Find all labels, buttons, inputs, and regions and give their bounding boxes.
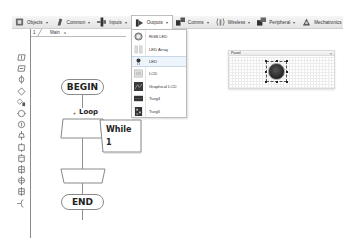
toolbar-comms-label: Comms — [188, 20, 204, 25]
chevron-down-icon: ▾ — [248, 20, 250, 25]
outputs-icon — [135, 18, 144, 28]
toolbar-objects-label: Objects — [27, 20, 43, 25]
toolbar-inputs[interactable]: Inputs ▾ — [94, 16, 131, 29]
comment-icon[interactable] — [14, 197, 28, 208]
component-macro-icon[interactable] — [14, 119, 28, 130]
panel-titlebar[interactable]: Panel × — [229, 51, 334, 56]
toolbar-comms[interactable]: Comms ▾ — [173, 16, 213, 29]
panel-canvas[interactable] — [229, 57, 334, 88]
delay-icon[interactable] — [14, 74, 28, 85]
resize-handle[interactable] — [265, 60, 267, 62]
comms-icon — [176, 17, 185, 27]
peripheral-icon — [257, 17, 266, 27]
resize-handle[interactable] — [276, 60, 278, 62]
led-icon — [134, 57, 143, 66]
chevron-down-icon: ▾ — [207, 20, 209, 25]
input-icon[interactable] — [14, 52, 28, 63]
menu-item-graphical-lcd[interactable]: Graphical LCD — [132, 81, 186, 93]
menu-item-label: LED Array — [149, 47, 168, 52]
menu-item-label: Tseg5 — [149, 109, 160, 114]
code-icon[interactable] — [14, 164, 28, 175]
resize-handle[interactable] — [286, 60, 288, 62]
resize-handle[interactable] — [286, 71, 288, 73]
tab-close-icon[interactable]: x — [64, 30, 66, 35]
calculation-icon[interactable] — [14, 142, 28, 153]
toolbar-inputs-label: Inputs — [109, 20, 122, 25]
resize-handle[interactable] — [286, 81, 288, 83]
tseg5-icon — [134, 107, 143, 116]
connection-point-icon[interactable] — [14, 153, 28, 164]
toolbar-wireless-label: Wireless — [228, 20, 246, 25]
toolbar-common[interactable]: Common ▾ — [52, 16, 95, 29]
chevron-down-icon: ▾ — [46, 20, 48, 25]
menu-item-label: RGB LED — [149, 34, 167, 39]
switch-icon[interactable] — [14, 97, 28, 108]
toolbar-outputs[interactable]: Outputs ▾ — [131, 15, 173, 29]
macro-icon[interactable] — [14, 108, 28, 119]
menu-item-tseg5[interactable]: Tseg5 — [132, 106, 186, 118]
led-component[interactable] — [268, 63, 285, 80]
decision-icon[interactable] — [14, 86, 28, 97]
chevron-down-icon: ▾ — [125, 20, 127, 25]
chevron-down-icon: ▾ — [293, 20, 295, 25]
inputs-icon — [97, 17, 106, 27]
menu-item-led-array[interactable]: LED Array — [132, 44, 186, 56]
toolbar-outputs-label: Outputs — [147, 20, 163, 25]
menu-item-tseg4[interactable]: Tseg4 — [132, 93, 186, 105]
flowcode-window: Objects ▾ Common ▾ Inputs ▾ Outputs ▾ Co… — [0, 0, 343, 238]
toolbar-peripheral[interactable]: Peripheral ▾ — [254, 16, 299, 29]
chevron-down-icon: ▾ — [88, 20, 90, 25]
begin-label: BEGIN — [67, 82, 98, 92]
menu-item-label: Graphical LCD — [149, 84, 176, 89]
palette-divider — [30, 29, 31, 238]
while-keyword: While — [106, 123, 131, 136]
wireless-icon — [216, 17, 225, 27]
menu-item-label: LED — [149, 59, 157, 64]
toolbar-peripheral-label: Peripheral — [269, 20, 290, 25]
outputs-dropdown-menu: RGB LED LED Array LED LCD Graphical LCD … — [131, 29, 187, 118]
resize-handle[interactable] — [265, 81, 267, 83]
loop-label: Loop — [79, 108, 98, 116]
end-label: END — [72, 197, 93, 207]
tab-main[interactable]: Main — [50, 30, 60, 35]
rgb-led-icon — [134, 32, 143, 41]
expand-loop-icon[interactable]: + — [73, 110, 76, 116]
menu-item-led[interactable]: LED — [132, 56, 186, 68]
component-toolbar: Objects ▾ Common ▾ Inputs ▾ Outputs ▾ Co… — [12, 16, 343, 29]
tab-divider — [37, 29, 43, 37]
toolbar-mechatronics[interactable]: Mechatronics ▾ — [299, 16, 343, 29]
document-tabbar: 1 Main x — [30, 29, 126, 37]
interrupt-icon[interactable] — [14, 175, 28, 186]
toolbar-mechatronics-label: Mechatronics — [314, 20, 341, 25]
output-icon[interactable] — [14, 63, 28, 74]
resize-handle[interactable] — [276, 81, 278, 83]
flow-connector — [82, 94, 83, 108]
panel-title: Panel — [231, 51, 241, 55]
begin-terminal[interactable]: BEGIN — [61, 79, 104, 95]
loop-icon[interactable] — [14, 130, 28, 141]
mechatronics-icon — [302, 17, 311, 27]
common-icon — [55, 17, 64, 27]
resize-handle[interactable] — [265, 71, 267, 73]
tab-number[interactable]: 1 — [33, 30, 36, 35]
while-condition-text: While 1 — [106, 123, 131, 149]
menu-item-label: LCD — [149, 71, 157, 76]
close-icon[interactable]: × — [330, 51, 332, 56]
menu-item-rgb-led[interactable]: RGB LED — [132, 31, 186, 43]
flow-connector — [82, 138, 83, 170]
chevron-down-icon: ▾ — [166, 20, 168, 25]
loop-end-block[interactable] — [60, 168, 106, 184]
toolbar-objects[interactable]: Objects ▾ — [12, 16, 52, 29]
led-array-icon — [134, 45, 143, 54]
toolbar-common-label: Common — [67, 20, 86, 25]
menu-item-lcd[interactable]: LCD — [132, 68, 186, 80]
c-code-icon[interactable] — [14, 186, 28, 197]
tseg4-icon — [134, 94, 143, 103]
end-terminal[interactable]: END — [61, 194, 104, 210]
icon-palette — [14, 52, 28, 209]
menu-item-label: Tseg4 — [149, 96, 160, 101]
lcd-icon — [134, 69, 143, 78]
toolbar-wireless[interactable]: Wireless ▾ — [213, 16, 255, 29]
while-value: 1 — [106, 136, 131, 149]
objects-icon — [15, 17, 24, 27]
